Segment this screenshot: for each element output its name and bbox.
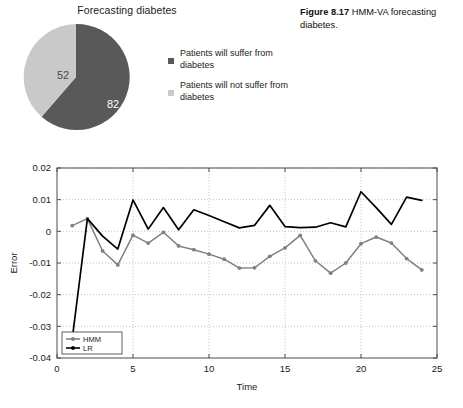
series-point-hmm (116, 263, 120, 267)
series-point-hmm (253, 266, 257, 270)
y-tick-label: 0.02 (33, 162, 52, 173)
y-tick-label: -0.01 (29, 257, 51, 268)
legend-label-lr: LR (83, 344, 93, 353)
legend-swatch-icon (168, 90, 174, 96)
series-point-hmm (131, 233, 135, 237)
legend-marker-lr (71, 346, 75, 350)
series-point-hmm (283, 246, 287, 250)
x-tick-label: 10 (204, 363, 215, 374)
x-tick-label: 20 (356, 363, 367, 374)
series-point-hmm (314, 259, 318, 263)
series-point-hmm (192, 248, 196, 252)
series-line-lr (72, 192, 422, 339)
pie-slices (24, 24, 130, 130)
y-tick-label: -0.04 (29, 352, 51, 363)
series-point-hmm (101, 249, 105, 253)
y-tick-label: 0 (46, 226, 51, 237)
series-point-hmm (70, 224, 74, 228)
pie-legend-label: Patients will not suffer from diabetes (180, 80, 293, 103)
legend-swatch-icon (168, 58, 174, 64)
y-axis-label: Error (8, 252, 19, 273)
series-point-hmm (374, 235, 378, 239)
pie-legend: Patients will suffer from diabetes Patie… (168, 48, 293, 112)
series-point-hmm (359, 242, 363, 246)
figure-caption-label: Figure 8.17 (300, 7, 349, 17)
series-point-hmm (162, 230, 166, 234)
y-tick-label: 0.01 (33, 194, 52, 205)
series-point-hmm (238, 266, 242, 270)
series-point-hmm (268, 254, 272, 258)
figure-caption: Figure 8.17 HMM-VA forecasting diabetes. (300, 6, 458, 31)
pie-legend-item-suffer: Patients will suffer from diabetes (168, 48, 293, 71)
x-tick-label: 25 (432, 363, 443, 374)
pie-legend-item-not-suffer: Patients will not suffer from diabetes (168, 80, 293, 103)
pie-chart: 52 82 (22, 22, 130, 132)
series-point-hmm (222, 257, 226, 261)
line-chart-legend: HMMLR (62, 332, 122, 354)
series-point-hmm (207, 252, 211, 256)
x-tick-label: 5 (130, 363, 135, 374)
series-point-hmm (344, 261, 348, 265)
pie-legend-label: Patients will suffer from diabetes (180, 48, 293, 71)
x-tick-label: 15 (280, 363, 291, 374)
plot-series (70, 192, 423, 339)
series-point-hmm (390, 241, 394, 245)
pie-value-suffer: 82 (107, 98, 119, 110)
plot-gridlines (57, 168, 437, 358)
series-point-hmm (420, 268, 424, 272)
series-point-hmm (405, 257, 409, 261)
series-point-hmm (177, 244, 181, 248)
line-chart: -0.04-0.03-0.02-0.0100.010.020510152025 … (0, 150, 463, 408)
series-point-hmm (298, 234, 302, 238)
legend-label-hmm: HMM (83, 335, 101, 344)
pie-chart-title: Forecasting diabetes (52, 4, 202, 16)
pie-value-not-suffer: 52 (57, 69, 69, 81)
x-axis-label: Time (237, 381, 258, 392)
x-tick-label: 0 (54, 363, 59, 374)
y-tick-label: -0.02 (29, 289, 51, 300)
legend-marker-hmm (71, 337, 75, 341)
top-figure-area: Forecasting diabetes 52 82 Patients will… (0, 0, 463, 150)
pie-chart-svg (22, 22, 130, 132)
line-chart-svg: -0.04-0.03-0.02-0.0100.010.020510152025 … (0, 150, 463, 408)
series-point-hmm (146, 241, 150, 245)
series-point-hmm (329, 271, 333, 275)
y-tick-label: -0.03 (29, 321, 51, 332)
